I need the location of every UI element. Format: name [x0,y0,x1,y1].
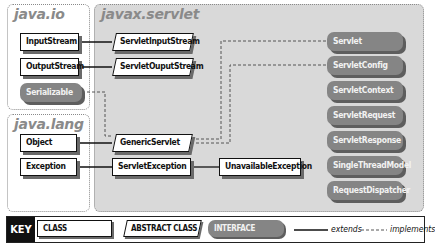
interface-singlethreadmodel: SingleThreadModel [327,156,403,175]
interface-servletconfig: ServletConfig [327,56,403,75]
class-label: GenericServlet [120,135,180,150]
interface-requestdispatcher: RequestDispatcher [327,181,403,200]
legend-abstract-class: ABSTRACT CLASS [123,220,202,237]
class-servletexception: ServletException [112,158,191,176]
legend-implements-label: implements [390,224,435,234]
class-unavailableexception: UnavailableException [219,158,301,176]
class-label: ServletOuputStream [120,59,203,74]
legend-class: CLASS [37,220,112,237]
class-outputstream: OutputStream [20,58,79,76]
key-label: KEY [7,217,35,242]
interface-servletrequest: ServletRequest [327,106,403,125]
legend-abstract-label: ABSTRACT CLASS [131,221,197,236]
class-servletinputstream: ServletInputStream [112,33,194,51]
abstract-class-genericservlet: GenericServlet [112,134,193,152]
interface-serializable: Serializable [20,83,82,102]
class-object: Object [20,134,77,152]
legend-extends-label: extends [331,224,362,234]
interface-servlet: Servlet [327,32,403,51]
interface-servletcontext: ServletContext [327,81,403,100]
class-exception: Exception [20,158,77,176]
legend-key: KEY CLASS ABSTRACT CLASS INTERFACE exten… [6,216,425,243]
class-servletoutputstream: ServletOuputStream [112,58,194,76]
legend-implements-line [361,229,387,232]
class-inputstream: InputStream [20,33,79,51]
legend-extends-line [294,229,328,232]
legend-interface: INTERFACE [208,220,284,237]
class-label: ServletInputStream [120,34,200,49]
interface-servletresponse: ServletResponse [327,131,403,150]
